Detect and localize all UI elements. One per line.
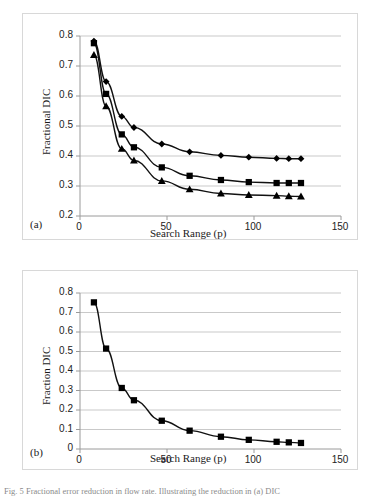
data-point-diamond <box>158 141 165 148</box>
figure-container: (a) Fractional DIC Search Range (p) (b) … <box>0 0 383 496</box>
y-tick-label: 0.8 <box>45 29 73 40</box>
data-point-square <box>91 40 97 46</box>
y-tick-label: 0.8 <box>45 286 73 297</box>
panel-a-tag: (a) <box>30 218 42 230</box>
x-tick-label: 100 <box>237 454 269 465</box>
data-point-square <box>131 397 137 403</box>
data-point-triangle <box>90 51 98 58</box>
y-tick-label: 0.7 <box>45 59 73 70</box>
data-point-square <box>186 428 192 434</box>
x-tick-label: 100 <box>237 221 269 232</box>
y-tick-label: 0.3 <box>45 179 73 190</box>
y-tick-label: 0.7 <box>45 306 73 317</box>
data-point-square <box>103 91 109 97</box>
data-point-diamond <box>186 148 193 155</box>
data-point-square <box>273 439 279 445</box>
series-line-diamond <box>94 41 301 159</box>
y-tick-label: 0.3 <box>45 384 73 395</box>
y-tick-label: 0 <box>45 442 73 453</box>
data-point-square <box>246 437 252 443</box>
y-tick-label: 0.6 <box>45 325 73 336</box>
y-tick-label: 0.2 <box>45 209 73 220</box>
y-tick-label: 0.2 <box>45 403 73 414</box>
figure-caption: Fig. 5 Fractional error reduction in flo… <box>4 486 379 496</box>
data-point-square <box>286 439 292 445</box>
data-point-square <box>91 299 97 305</box>
y-tick-label: 0.1 <box>45 423 73 434</box>
x-tick-label: 150 <box>324 454 356 465</box>
data-point-square <box>218 434 224 440</box>
data-point-square <box>298 180 304 186</box>
x-tick-label: 0 <box>63 221 95 232</box>
chart-b-plot <box>23 271 359 471</box>
data-point-square <box>186 173 192 179</box>
data-point-square <box>103 345 109 351</box>
data-point-diamond <box>218 152 225 159</box>
x-tick-label: 0 <box>63 454 95 465</box>
data-point-diamond <box>131 124 138 131</box>
x-tick-label: 50 <box>150 454 182 465</box>
data-point-square <box>131 144 137 150</box>
y-tick-label: 0.4 <box>45 149 73 160</box>
x-tick-label: 150 <box>324 221 356 232</box>
y-tick-label: 0.4 <box>45 364 73 375</box>
y-tick-label: 0.5 <box>45 345 73 356</box>
data-point-square <box>159 164 165 170</box>
data-point-square <box>286 180 292 186</box>
chart-a-plot <box>23 14 359 241</box>
data-point-square <box>273 180 279 186</box>
x-tick-label: 50 <box>150 221 182 232</box>
data-point-square <box>119 385 125 391</box>
panel-b-tag: (b) <box>30 446 43 458</box>
series-line-square <box>94 43 301 183</box>
data-point-square <box>119 131 125 137</box>
y-tick-label: 0.5 <box>45 119 73 130</box>
data-point-diamond <box>245 154 252 161</box>
y-tick-label: 0.6 <box>45 89 73 100</box>
data-point-square <box>246 179 252 185</box>
series-line-square <box>94 302 301 443</box>
data-point-square <box>218 177 224 183</box>
data-point-square <box>159 418 165 424</box>
data-point-square <box>298 440 304 446</box>
